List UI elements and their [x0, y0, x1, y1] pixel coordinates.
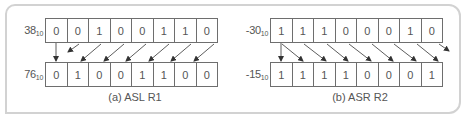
bit-cell: 0: [378, 18, 401, 43]
bit-cell: 0: [196, 62, 219, 87]
top-row-label-b: -3010: [230, 18, 268, 43]
bit-cell: 0: [356, 18, 379, 43]
bit-cell: 1: [153, 18, 176, 43]
bit-cell: 1: [335, 62, 358, 87]
bit-cell: 1: [174, 18, 197, 43]
bit-cell: 0: [110, 18, 133, 43]
bit-cell: 0: [335, 18, 358, 43]
bit-cell: 0: [131, 18, 154, 43]
bit-cell: 0: [174, 62, 197, 87]
bit-cell: 0: [356, 62, 379, 87]
bit-cell: 1: [313, 18, 336, 43]
bit-cell: 0: [399, 62, 422, 87]
bit-cell: 1: [270, 18, 293, 43]
bit-cell: 0: [196, 18, 219, 43]
bit-cell: 1: [131, 62, 154, 87]
decimal-value: -15: [246, 68, 261, 80]
register-before-a: 0 0 1 0 0 1 1 0: [45, 18, 218, 43]
caption-b: (b) ASR R2: [270, 91, 450, 103]
bit-cell: 1: [399, 18, 422, 43]
bottom-row-label-a: 7610: [5, 62, 43, 87]
caption-a: (a) ASL R1: [45, 91, 225, 103]
decimal-value: 76: [24, 68, 36, 80]
bit-cell: 1: [153, 62, 176, 87]
decimal-value: -30: [246, 24, 261, 36]
decimal-value: 38: [24, 24, 36, 36]
register-after-b: 1 1 1 1 0 0 0 1: [270, 62, 443, 87]
base-subscript: 10: [261, 74, 268, 81]
bit-cell: 1: [292, 62, 315, 87]
top-row-label-a: 3810: [5, 18, 43, 43]
register-after-a: 0 1 0 0 1 1 0 0: [45, 62, 218, 87]
bit-cell: 0: [45, 18, 68, 43]
bit-cell: 1: [67, 62, 90, 87]
bit-cell: 0: [110, 62, 133, 87]
base-subscript: 10: [36, 74, 43, 81]
bit-cell: 1: [313, 62, 336, 87]
bit-cell: 0: [421, 18, 444, 43]
bit-cell: 1: [421, 62, 444, 87]
bottom-row-label-b: -1510: [230, 62, 268, 87]
bit-cell: 1: [292, 18, 315, 43]
base-subscript: 10: [261, 30, 268, 37]
bit-cell: 0: [88, 62, 111, 87]
bit-cell: 0: [378, 62, 401, 87]
bit-cell: 1: [270, 62, 293, 87]
register-before-b: 1 1 1 0 0 0 1 0: [270, 18, 443, 43]
base-subscript: 10: [36, 30, 43, 37]
bit-cell: 0: [67, 18, 90, 43]
bit-cell: 1: [88, 18, 111, 43]
bit-cell: 0: [45, 62, 68, 87]
